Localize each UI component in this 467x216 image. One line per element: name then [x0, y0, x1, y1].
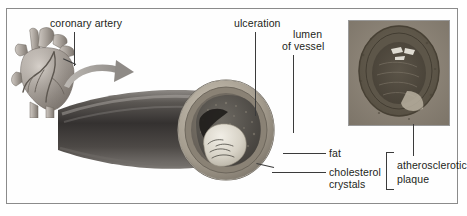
leader-fat: [283, 153, 326, 154]
label-ulceration: ulceration: [234, 18, 281, 30]
label-cholesterol-line1: cholesterol: [329, 167, 381, 179]
label-lumen-line2: of vessel: [282, 41, 324, 53]
leader-cholesterol: [272, 172, 326, 173]
leader-plaque: [413, 124, 414, 156]
label-plaque-line1: atherosclerotic: [397, 160, 467, 172]
label-fat: fat: [329, 148, 341, 160]
histology-micrograph: [348, 20, 450, 126]
leader-ulceration: [255, 32, 256, 116]
leader-lumen: [293, 55, 294, 133]
bracket-atherosclerotic-plaque: [386, 152, 394, 190]
label-lumen-line1: lumen: [293, 29, 322, 41]
label-coronary-artery: coronary artery: [50, 18, 122, 30]
label-cholesterol-line2: crystals: [329, 179, 365, 191]
label-plaque-line2: plaque: [397, 174, 429, 186]
leader-coronary-artery-vertical: [74, 32, 75, 66]
